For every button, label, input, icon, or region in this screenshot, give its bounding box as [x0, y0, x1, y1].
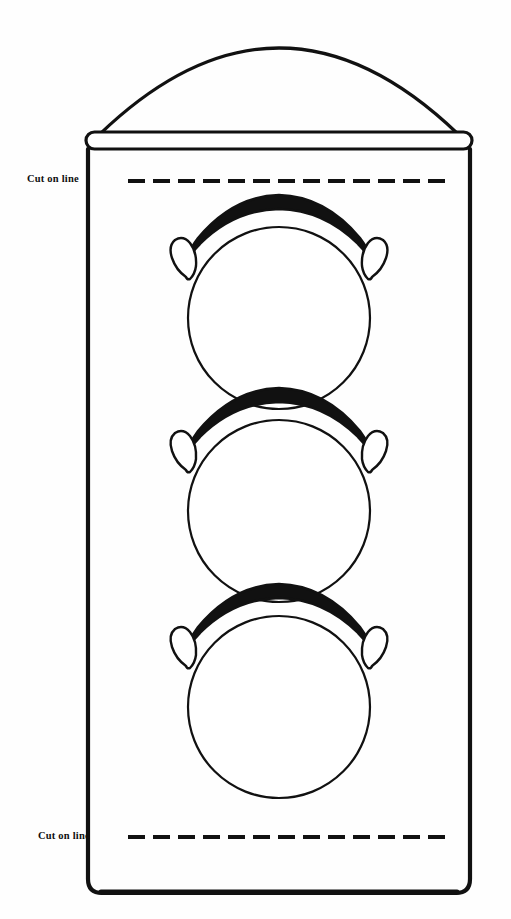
- cap-bar-shape: [86, 132, 472, 149]
- lamp-bottom-circle: [188, 616, 370, 798]
- lamp-unit-middle: [171, 388, 388, 602]
- visor-middle-left-hook: [171, 431, 197, 472]
- page-root: Cut on line Cut on line: [0, 0, 511, 919]
- traffic-light-figure: [0, 0, 511, 919]
- dome-arc: [100, 48, 458, 134]
- visor-bottom-left-hook: [171, 627, 197, 668]
- lamp-unit-bottom: [171, 584, 388, 798]
- visor-top-left-hook: [171, 238, 197, 279]
- dome-arch: [100, 48, 458, 134]
- visor-middle-right-hook: [362, 431, 388, 472]
- cut-on-line-label-bottom: Cut on line: [38, 831, 90, 842]
- visor-top-right-hook: [362, 238, 388, 279]
- lamp-top-circle: [188, 227, 370, 409]
- lamp-middle-circle: [188, 420, 370, 602]
- cap-bar: [86, 132, 472, 149]
- visor-bottom-right-hook: [362, 627, 388, 668]
- lamp-unit-top: [171, 195, 388, 409]
- cut-on-line-label-top: Cut on line: [27, 174, 79, 185]
